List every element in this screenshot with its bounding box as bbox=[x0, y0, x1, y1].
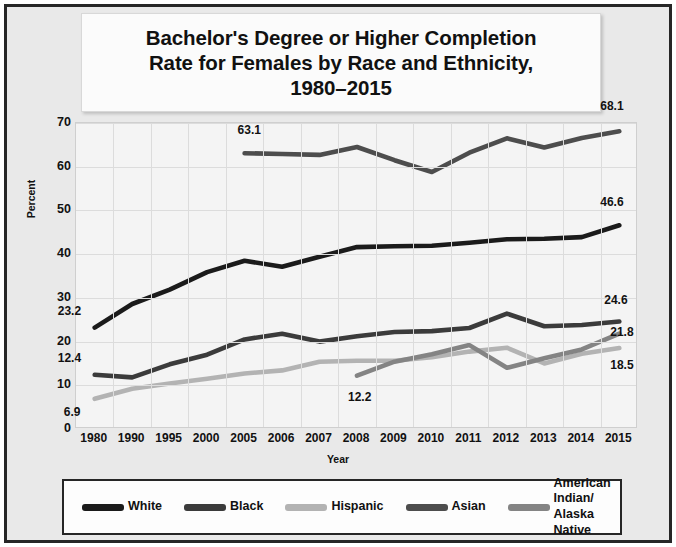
legend-item[interactable]: Hispanic bbox=[285, 499, 383, 515]
legend-swatch-icon bbox=[184, 504, 226, 511]
gridline-horizontal bbox=[76, 298, 636, 299]
legend-label-line-2: Alaska Native bbox=[554, 507, 611, 538]
gridline-vertical bbox=[451, 123, 452, 427]
legend-item[interactable]: White bbox=[82, 499, 162, 515]
title-line-3: 1980–2015 bbox=[146, 75, 537, 100]
legend-label-line-1: American Indian/ bbox=[554, 476, 611, 507]
x-tick-label: 2008 bbox=[343, 431, 370, 445]
legend-label: White bbox=[128, 499, 162, 515]
x-tick-label: 2010 bbox=[418, 431, 445, 445]
y-tick-label: 10 bbox=[27, 377, 71, 391]
y-tick-label: 0 bbox=[27, 421, 71, 435]
data-point-label: 63.1 bbox=[238, 123, 261, 137]
x-tick-label: 1980 bbox=[80, 431, 107, 445]
x-axis-label: Year bbox=[7, 453, 669, 465]
series-lines bbox=[76, 123, 638, 429]
legend-swatch-icon bbox=[406, 504, 448, 511]
chart-title-box: Bachelor's Degree or Higher Completion R… bbox=[81, 13, 601, 112]
gridline-horizontal bbox=[76, 254, 636, 255]
y-tick-label: 40 bbox=[27, 246, 71, 260]
data-point-label: 6.9 bbox=[64, 405, 81, 419]
data-point-label: 46.6 bbox=[600, 195, 623, 209]
legend-label: Black bbox=[230, 499, 263, 515]
plot-area bbox=[75, 122, 637, 428]
chart-legend: WhiteBlackHispanicAsianAmerican Indian/A… bbox=[62, 479, 622, 535]
gridline-vertical bbox=[151, 123, 152, 427]
chart-frame: Bachelor's Degree or Higher Completion R… bbox=[4, 4, 672, 543]
x-tick-label: 2011 bbox=[455, 431, 481, 445]
gridline-vertical bbox=[263, 123, 264, 427]
legend-swatch-icon bbox=[285, 504, 327, 511]
legend-item[interactable]: Asian bbox=[406, 499, 486, 515]
gridline-horizontal bbox=[76, 342, 636, 343]
gridline-vertical bbox=[113, 123, 114, 427]
gridline-horizontal bbox=[76, 123, 636, 124]
data-point-label: 12.4 bbox=[58, 351, 81, 365]
x-tick-label: 2006 bbox=[268, 431, 295, 445]
series-line bbox=[95, 314, 620, 378]
gridline-vertical bbox=[188, 123, 189, 427]
y-tick-label: 60 bbox=[27, 159, 71, 173]
x-tick-label: 2013 bbox=[530, 431, 557, 445]
gridline-vertical bbox=[376, 123, 377, 427]
y-tick-label: 20 bbox=[27, 334, 71, 348]
gridline-vertical bbox=[338, 123, 339, 427]
x-tick-label: 1995 bbox=[155, 431, 182, 445]
title-line-1: Bachelor's Degree or Higher Completion bbox=[146, 25, 537, 50]
gridline-vertical bbox=[526, 123, 527, 427]
title-line-2: Rate for Females by Race and Ethnicity, bbox=[146, 50, 537, 75]
legend-item[interactable]: American Indian/Alaska Native bbox=[508, 476, 611, 539]
x-tick-label: 2009 bbox=[380, 431, 407, 445]
gridline-vertical bbox=[488, 123, 489, 427]
data-point-label: 12.2 bbox=[348, 390, 371, 404]
legend-label: American Indian/Alaska Native bbox=[554, 476, 611, 539]
data-point-label: 21.8 bbox=[610, 325, 633, 339]
legend-swatch-icon bbox=[82, 504, 124, 511]
data-point-label: 24.6 bbox=[604, 293, 627, 307]
data-point-label: 18.5 bbox=[610, 358, 633, 372]
y-tick-label: 70 bbox=[27, 115, 71, 129]
x-tick-label: 2007 bbox=[305, 431, 332, 445]
gridline-vertical bbox=[301, 123, 302, 427]
gridline-vertical bbox=[413, 123, 414, 427]
gridline-horizontal bbox=[76, 167, 636, 168]
legend-label: Hispanic bbox=[331, 499, 383, 515]
y-tick-label: 50 bbox=[27, 202, 71, 216]
gridline-vertical bbox=[226, 123, 227, 427]
legend-label: Asian bbox=[452, 499, 486, 515]
x-tick-label: 2014 bbox=[567, 431, 594, 445]
y-tick-label: 30 bbox=[27, 290, 71, 304]
gridline-horizontal bbox=[76, 385, 636, 386]
x-tick-label: 2005 bbox=[230, 431, 257, 445]
x-tick-label: 2012 bbox=[493, 431, 520, 445]
x-tick-label: 2015 bbox=[605, 431, 632, 445]
x-tick-label: 2000 bbox=[193, 431, 220, 445]
page-title: Bachelor's Degree or Higher Completion R… bbox=[146, 25, 537, 100]
legend-item[interactable]: Black bbox=[184, 499, 263, 515]
legend-swatch-icon bbox=[508, 504, 550, 511]
data-point-label: 23.2 bbox=[58, 304, 81, 318]
gridline-horizontal bbox=[76, 210, 636, 211]
data-point-label: 68.1 bbox=[600, 99, 623, 113]
gridline-vertical bbox=[601, 123, 602, 427]
gridline-vertical bbox=[563, 123, 564, 427]
x-tick-label: 1990 bbox=[118, 431, 145, 445]
series-line bbox=[95, 225, 620, 327]
